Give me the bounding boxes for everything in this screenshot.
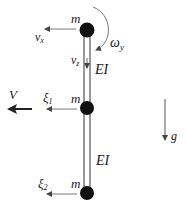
mass-middle xyxy=(80,101,94,115)
ei-upper-label: EI xyxy=(94,62,110,77)
xi2-label: ξ2 xyxy=(38,176,48,192)
omega-y-arc-arrow xyxy=(93,7,108,50)
gravity-label: g xyxy=(171,129,177,143)
mass-top-label: m xyxy=(71,11,80,26)
beam-mass-diagram: m m m ωy vx vz EI EI V ξ1 ξ2 g xyxy=(0,0,186,209)
xi1-label: ξ1 xyxy=(43,90,53,106)
mass-bottom-label: m xyxy=(71,176,80,191)
ei-lower-label: EI xyxy=(95,153,111,168)
vx-label: vx xyxy=(35,30,44,45)
mass-middle-label: m xyxy=(71,91,80,106)
mass-bottom xyxy=(80,186,94,200)
velocity-V-label: V xyxy=(9,87,19,102)
mass-top xyxy=(80,23,95,38)
vz-label: vz xyxy=(71,53,80,68)
omega-y-label: ωy xyxy=(110,35,124,52)
beam-lower xyxy=(84,114,90,188)
beam-upper xyxy=(84,36,90,103)
